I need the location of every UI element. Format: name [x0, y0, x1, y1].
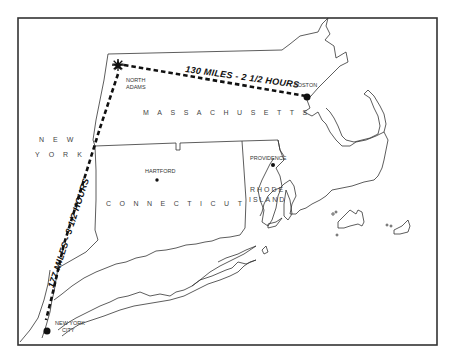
map-canvas: [0, 0, 455, 363]
hartford-dot-icon: [155, 178, 158, 181]
city-label-nyc-1: NEW YORK: [55, 320, 85, 327]
city-label-nyc-2: CITY: [62, 327, 75, 334]
star-icon: [112, 59, 124, 71]
city-label-boston: BOSTON: [294, 82, 317, 89]
state-label-new-york-2: YORK: [35, 151, 91, 158]
city-label-north-adams-1: NORTH: [126, 77, 145, 84]
city-label-hartford: HARTFORD: [145, 168, 175, 175]
massachusetts-border: [108, 18, 328, 54]
state-label-rhode-island-1: RHODE: [250, 186, 285, 193]
ma-ct-border: [95, 140, 284, 156]
long-island: [58, 260, 256, 336]
state-label-connecticut: CONNECTICUT: [106, 200, 250, 207]
rhode-island-coastline: [258, 140, 284, 226]
city-label-north-adams-2: ADAMS: [126, 84, 146, 91]
aquidneck-island: [284, 190, 292, 220]
ma-ny-border: [93, 54, 108, 146]
connecticut-coastline: [54, 235, 240, 300]
nantucket: [394, 220, 410, 234]
marthas-vineyard: [338, 210, 364, 228]
state-label-massachusetts: MASSACHUSETTS: [143, 109, 316, 116]
providence-dot-icon: [271, 163, 275, 167]
long-island-north-fork: [192, 246, 256, 286]
city-label-providence: PROVIDENCE: [250, 155, 286, 162]
state-label-new-york-1: NEW: [39, 136, 82, 143]
block-island: [262, 246, 268, 254]
ct-ri-border: [240, 141, 246, 235]
boston-dot-icon: [304, 94, 311, 101]
cape-cod-coastline: [290, 132, 388, 214]
nyc-dot-icon: [44, 328, 51, 335]
state-label-rhode-island-2: ISLAND: [249, 196, 286, 203]
